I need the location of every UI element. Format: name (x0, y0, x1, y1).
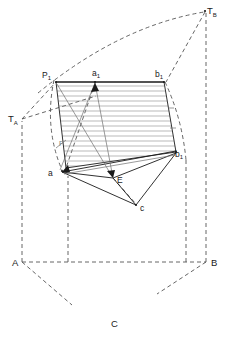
vertex-P1 (55, 81, 57, 83)
label-A: A (12, 257, 19, 268)
label-F: F (59, 140, 63, 147)
label-C: C (111, 318, 118, 329)
vertex-c (135, 204, 137, 206)
vertex-TB (204, 10, 206, 12)
label-E: E (117, 175, 123, 185)
label-a-lower: a (48, 168, 53, 178)
diagram-canvas: TB TA P1 a1 b1 b1 a E c A B C F (0, 0, 228, 342)
vertex-a1 (94, 81, 96, 83)
vertex-a-low (61, 170, 63, 172)
vertex-b1-top (163, 81, 165, 83)
label-B: B (211, 257, 217, 268)
geometric-construction-figure: TB TA P1 a1 b1 b1 a E c A B C F (0, 0, 228, 342)
